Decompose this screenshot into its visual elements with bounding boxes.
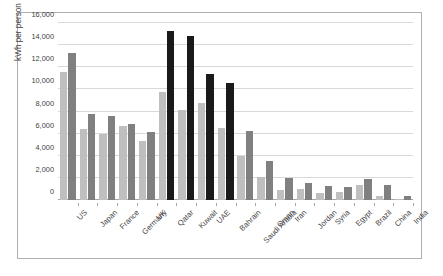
bar [344,187,351,200]
bar [325,186,332,200]
x-tick-mark [295,203,296,206]
bar [404,196,411,200]
bar [80,129,87,200]
x-tick-mark [97,203,98,206]
x-tick-mark [216,203,217,206]
bar [297,189,304,200]
bar-group [275,23,295,200]
x-tick-label: Bahrain [237,208,262,233]
bar [88,114,95,200]
bar-group [58,23,78,200]
bar [147,132,154,200]
bar [285,178,292,200]
x-tick-label: Qatar [176,208,196,228]
bar-group [137,23,157,200]
bar [218,128,225,200]
y-tick-label: 14,000 [6,33,54,41]
bar [395,199,402,200]
x-tick-mark [176,203,177,206]
x-tick-mark [334,203,335,206]
x-tick-mark [354,203,355,206]
bar [384,185,391,200]
x-tick-mark [275,203,276,206]
y-tick-label: 4,000 [6,144,54,152]
bar-group [334,23,354,200]
bar [356,185,363,200]
bar-group [255,23,275,200]
x-tick-mark [157,203,158,206]
y-axis-tick-labels: 02,0004,0006,0008,00010,00012,00014,0001… [4,23,54,200]
y-tick-label: 6,000 [6,122,54,130]
bar-group [117,23,137,200]
x-tick-label: Japan [98,208,119,229]
bar-group [196,23,216,200]
bar-group [216,23,236,200]
bar [159,92,166,200]
y-tick-label: 16,000 [6,11,54,19]
x-tick-mark [374,203,375,206]
bar [336,192,343,200]
y-tick-label: 8,000 [6,100,54,108]
bar [257,177,264,200]
bar-group [78,23,98,200]
x-axis-tick-labels: USJapanFranceGermanyUKQatarKuwaitUAEBahr… [58,203,413,265]
bar [68,53,75,200]
x-tick-label: France [118,208,141,231]
y-tick-label: 12,000 [6,55,54,63]
bar [187,36,194,200]
bar-group [97,23,117,200]
bar [246,131,253,200]
bar [139,141,146,200]
bar [226,83,233,200]
bar-group [157,23,177,200]
x-tick-label: US [75,208,89,222]
bar-group [374,23,394,200]
bar [167,31,174,200]
plot-area [58,23,413,200]
x-tick-label: Syria [333,208,352,227]
bar [277,190,284,201]
x-tick-label: Brazil [373,208,393,228]
bar [108,116,115,200]
x-tick-mark [78,203,79,206]
bar [198,103,205,200]
x-tick-mark [196,203,197,206]
x-tick-mark [236,203,237,206]
bar-group [236,23,256,200]
bar [119,126,126,200]
x-tick-mark [255,203,256,206]
x-tick-mark [117,203,118,206]
bar [364,179,371,200]
bar-group [295,23,315,200]
bar [60,72,67,200]
x-tick-label: China [393,208,413,228]
x-tick-mark [137,203,138,206]
bar-group [393,23,413,200]
bar [376,196,383,200]
bar [266,161,273,200]
bar [316,193,323,200]
x-tick-mark [393,203,394,206]
x-tick-mark [413,203,414,206]
bar [305,183,312,200]
y-tick-label: 0 [6,188,54,196]
bar [128,124,135,200]
bar [237,156,244,200]
y-tick-label: 10,000 [6,77,54,85]
x-tick-mark [314,203,315,206]
y-tick-label: 2,000 [6,166,54,174]
bar-group [314,23,334,200]
bar [206,74,213,200]
bar-group [176,23,196,200]
bar-group [354,23,374,200]
bar [99,134,106,200]
x-tick-label: UAE [214,208,231,225]
bar [178,110,185,200]
x-tick-label: Egypt [354,208,374,228]
